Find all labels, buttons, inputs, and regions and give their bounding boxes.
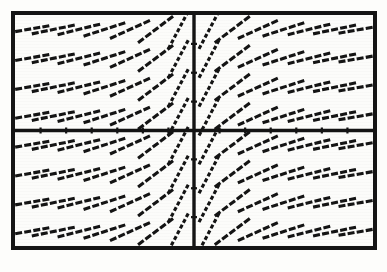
slope-segment — [215, 161, 250, 187]
slope-segment — [199, 15, 220, 49]
slope-segment — [168, 15, 189, 49]
plot-area — [15, 15, 373, 246]
slope-segment — [110, 49, 150, 67]
slope-segment — [110, 107, 150, 125]
slope-segment — [238, 194, 278, 212]
slope-segment — [110, 136, 150, 154]
slope-segment — [215, 132, 250, 158]
slope-segment — [110, 194, 150, 212]
slope-segment — [238, 107, 278, 125]
slope-segment — [215, 218, 250, 244]
slope-segment — [238, 223, 278, 241]
slope-field-figure — [0, 0, 387, 272]
slope-segment — [138, 45, 173, 71]
axes-group — [15, 15, 373, 246]
slope-segment — [238, 165, 278, 183]
slope-segment — [238, 49, 278, 67]
slope-segment — [138, 132, 173, 158]
slope-segment — [110, 20, 150, 38]
slope-segment — [238, 136, 278, 154]
slope-segment — [138, 16, 173, 42]
slope-segment — [138, 103, 173, 129]
slope-segment — [215, 74, 250, 100]
slope-segment — [138, 161, 173, 187]
plot-frame — [11, 11, 377, 250]
slope-segment — [138, 218, 173, 244]
slope-segment — [138, 189, 173, 215]
slope-segment — [215, 189, 250, 215]
slope-segment — [238, 20, 278, 38]
slope-segment — [138, 74, 173, 100]
slope-segment — [110, 223, 150, 241]
slope-segment — [199, 212, 220, 246]
slope-segment — [238, 78, 278, 96]
slope-segment — [215, 103, 250, 129]
slope-segment — [168, 212, 189, 246]
slope-field-canvas — [15, 15, 373, 246]
slope-segment — [110, 165, 150, 183]
slope-segment — [215, 45, 250, 71]
slope-segment — [215, 16, 250, 42]
slope-segment — [110, 78, 150, 96]
